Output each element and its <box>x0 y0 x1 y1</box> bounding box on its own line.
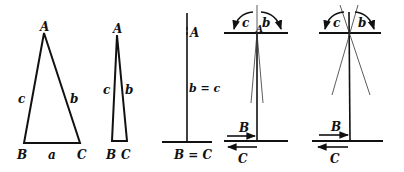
triangle-abc <box>24 33 80 143</box>
cone-line-right <box>257 33 263 103</box>
label-c-force: C <box>330 152 340 166</box>
cone-line-left <box>251 33 257 103</box>
label-vertex-b: B <box>105 148 116 162</box>
label-vertex-c: C <box>77 148 87 162</box>
figure-3-degenerate: A b = c B = C <box>163 13 221 162</box>
label-c: c <box>242 16 250 30</box>
label-b-equals-c: b = c <box>189 82 221 95</box>
label-vertex-c: C <box>121 148 131 162</box>
label-c-force: C <box>238 152 248 166</box>
label-side-b: b <box>125 83 133 97</box>
label-a: A <box>255 24 263 34</box>
figure-4-rod-narrow-cone: c b A B C <box>225 5 287 166</box>
label-vertex-b: B <box>16 148 27 162</box>
figure-1-triangle: A c b B a C <box>16 20 87 162</box>
label-vertex-a: A <box>112 22 122 36</box>
label-side-b: b <box>70 92 78 106</box>
diagram-canvas: A c b B a C A c b B C A b = c B = C c b … <box>0 0 404 172</box>
label-b-equals-c-base: B = C <box>173 148 213 162</box>
label-side-c: c <box>103 83 111 97</box>
label-b-force: B <box>238 121 249 135</box>
label-side-c: c <box>18 92 26 106</box>
label-vertex-a: A <box>39 20 49 34</box>
figure-5-rod-wide-cross: c b B C <box>313 5 382 166</box>
label-b: b <box>262 16 270 30</box>
label-c: c <box>333 16 341 30</box>
label-b: b <box>358 16 366 30</box>
label-side-a: a <box>48 148 56 162</box>
label-vertex-a: A <box>189 26 199 40</box>
figure-2-narrow-triangle: A c b B C <box>103 22 133 162</box>
label-b-force: B <box>330 120 341 134</box>
